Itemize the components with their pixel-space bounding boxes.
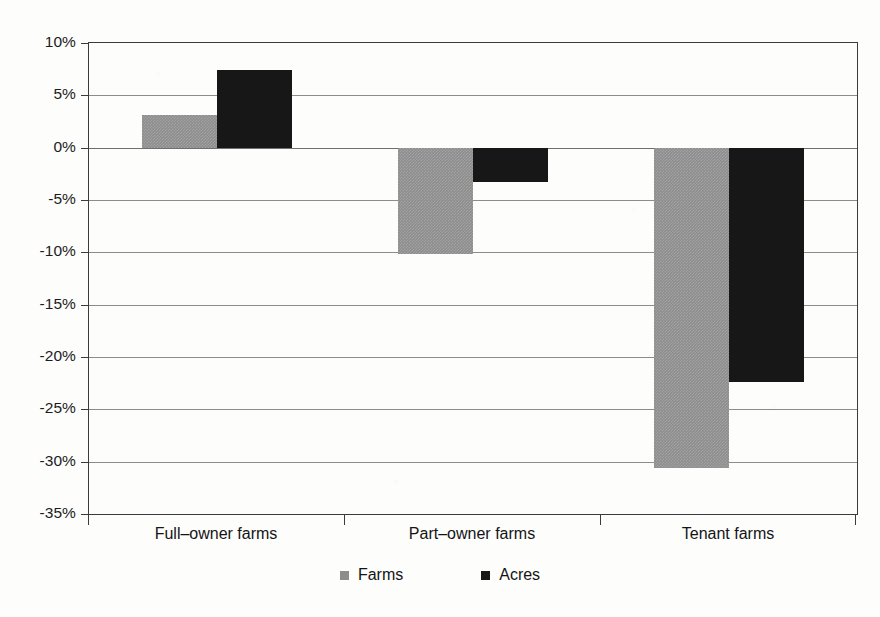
legend-item-acres[interactable]: Acres [481, 566, 540, 584]
bar-acres-1 [473, 148, 548, 183]
y-axis-tick [81, 148, 89, 149]
category-label-1: Part–owner farms [409, 525, 535, 543]
y-axis-tick-label: -25% [39, 399, 76, 417]
y-axis-tick [81, 252, 89, 253]
y-axis-tick [81, 409, 89, 410]
y-axis-tick [81, 357, 89, 358]
y-axis-tick [81, 462, 89, 463]
y-axis-tick [81, 305, 89, 306]
y-axis-tick-label: -10% [39, 242, 76, 260]
y-axis-labels: 10%5%0%-5%-10%-15%-20%-25%-30%-35% [0, 42, 76, 515]
y-axis-tick-label: -35% [39, 504, 76, 522]
y-axis-tick-label: 5% [53, 85, 76, 103]
legend-label: Acres [499, 566, 540, 584]
bar-farms-0 [142, 115, 217, 147]
y-axis-tick [81, 200, 89, 201]
category-axis-tick [88, 515, 89, 525]
y-axis-tick-label: -30% [39, 452, 76, 470]
y-axis-tick-label: -20% [39, 347, 76, 365]
y-axis-tick-label: -5% [48, 190, 76, 208]
legend-swatch-icon-farms [340, 571, 349, 580]
category-label-0: Full–owner farms [155, 525, 278, 543]
legend-item-farms[interactable]: Farms [340, 566, 403, 584]
category-axis-ticks [88, 515, 858, 525]
bar-farms-2 [654, 148, 729, 468]
y-axis-tick [81, 514, 89, 515]
legend-label: Farms [358, 566, 403, 584]
bar-acres-2 [729, 148, 804, 382]
chart-legend: FarmsAcres [0, 566, 880, 584]
plot-area [88, 42, 858, 515]
y-axis-tick [81, 95, 89, 96]
y-axis-tick-label: -15% [39, 295, 76, 313]
category-axis-tick [855, 515, 856, 525]
bar-acres-0 [217, 70, 292, 147]
bar-farms-1 [398, 148, 473, 255]
category-axis-tick [600, 515, 601, 525]
legend-swatch-icon-acres [481, 571, 490, 580]
gridline--30% [89, 462, 857, 463]
category-axis-labels: Full–owner farmsPart–owner farmsTenant f… [88, 525, 858, 553]
y-axis-tick-label: 0% [53, 138, 76, 156]
gridline--25% [89, 409, 857, 410]
category-axis-tick [344, 515, 345, 525]
chart-page: 10%5%0%-5%-10%-15%-20%-25%-30%-35% Full–… [0, 0, 880, 617]
gridline-5% [89, 95, 857, 96]
y-axis-tick-label: 10% [45, 33, 76, 51]
y-axis-tick [81, 43, 89, 44]
category-label-2: Tenant farms [682, 525, 774, 543]
